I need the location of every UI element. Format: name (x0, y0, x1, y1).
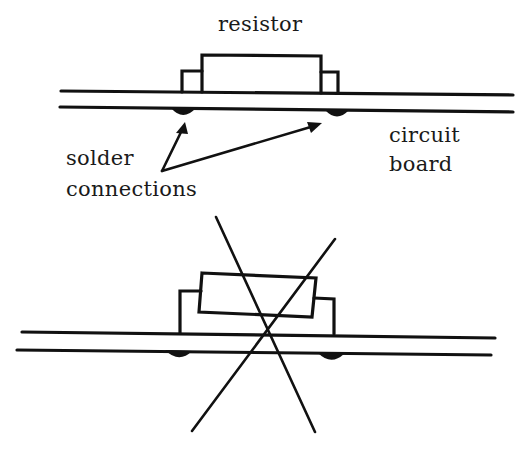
bottom-panel (17, 217, 495, 432)
solder-blob-left-2 (165, 350, 192, 357)
label-resistor: resistor (218, 11, 302, 37)
board-bottom-edge-2 (17, 350, 491, 355)
left-lead (182, 71, 202, 92)
resistor-body (202, 55, 321, 93)
solder-blob-left (171, 108, 196, 115)
board-top-edge (61, 91, 513, 95)
cross-out-line-1 (216, 217, 315, 432)
label-circuit: circuit (389, 122, 460, 148)
board-top-edge-2 (22, 332, 495, 338)
diagram-canvas (0, 0, 522, 456)
arrowhead-right (307, 122, 322, 133)
board-bottom-edge (60, 107, 513, 112)
solder-blob-right (325, 110, 349, 117)
label-solder: solder (66, 145, 134, 171)
right-lead (321, 72, 338, 93)
right-lead-2 (314, 298, 334, 334)
label-board: board (389, 151, 453, 177)
arrowhead-left (176, 122, 188, 134)
resistor-mounting-diagram: resistor solder connections circuit boar… (0, 0, 522, 456)
solder-blob-right-2 (318, 353, 344, 360)
tilted-resistor-body (199, 273, 316, 317)
label-connections: connections (66, 176, 197, 202)
